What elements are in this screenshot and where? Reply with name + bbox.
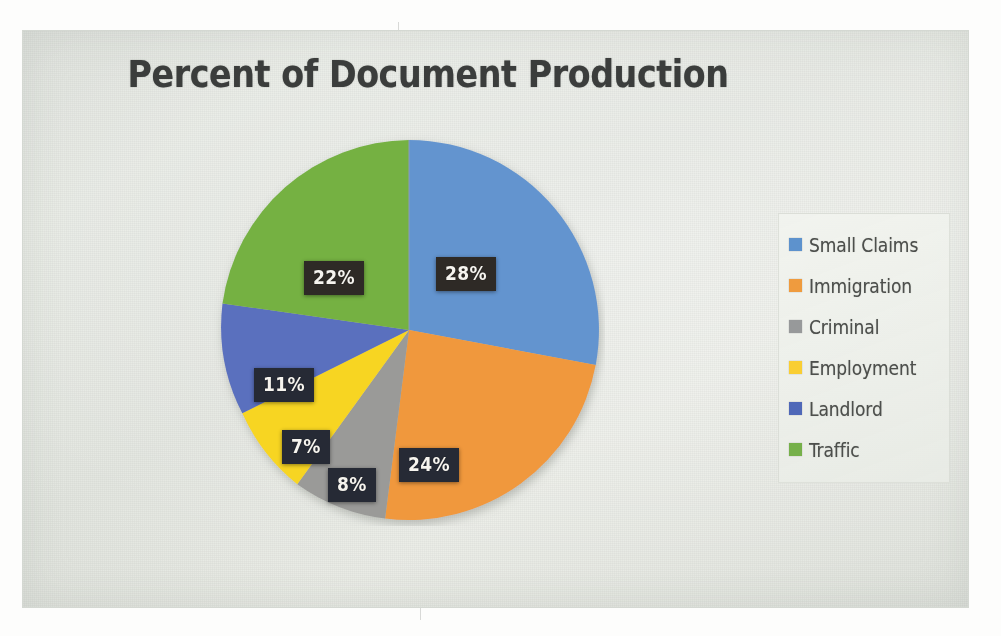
pie-data-label-immigration: 24% [399, 448, 459, 482]
pie-data-label-employment: 7% [282, 430, 330, 464]
pie-data-label-traffic: 22% [304, 261, 364, 295]
pie-chart-panel[interactable]: Percent of Document Production [22, 30, 969, 608]
legend-item-immigration[interactable]: Immigration [789, 265, 941, 306]
legend-swatch-icon [789, 361, 802, 374]
legend-label: Small Claims [809, 234, 918, 256]
legend-label: Criminal [809, 316, 879, 338]
pie-data-label-landlord: 11% [254, 368, 314, 402]
pie-slice-traffic[interactable] [223, 140, 410, 330]
page-showthrough-text [51, 245, 56, 262]
legend-item-criminal[interactable]: Criminal [789, 306, 941, 347]
legend-item-landlord[interactable]: Landlord [789, 388, 941, 429]
legend-swatch-icon [789, 402, 802, 415]
chart-legend[interactable]: Small Claims Immigration Criminal Employ… [778, 213, 950, 483]
legend-item-employment[interactable]: Employment [789, 347, 941, 388]
legend-label: Employment [809, 357, 916, 379]
legend-swatch-icon [789, 320, 802, 333]
legend-swatch-icon [789, 238, 802, 251]
legend-swatch-icon [789, 279, 802, 292]
scanned-page: Percent of Document Production [0, 0, 1001, 636]
pie-data-label-criminal: 8% [328, 468, 376, 502]
legend-label: Immigration [809, 275, 912, 297]
page-showthrough-text [51, 331, 56, 348]
legend-item-traffic[interactable]: Traffic [789, 429, 941, 470]
chart-title: Percent of Document Production [23, 53, 833, 96]
pie-slice-small-claims[interactable] [409, 140, 599, 365]
pie-data-label-small-claims: 28% [436, 257, 496, 291]
legend-label: Landlord [809, 398, 883, 420]
legend-label: Traffic [809, 439, 860, 461]
page-ruling-mark [420, 606, 421, 620]
legend-item-small-claims[interactable]: Small Claims [789, 224, 941, 265]
legend-swatch-icon [789, 443, 802, 456]
